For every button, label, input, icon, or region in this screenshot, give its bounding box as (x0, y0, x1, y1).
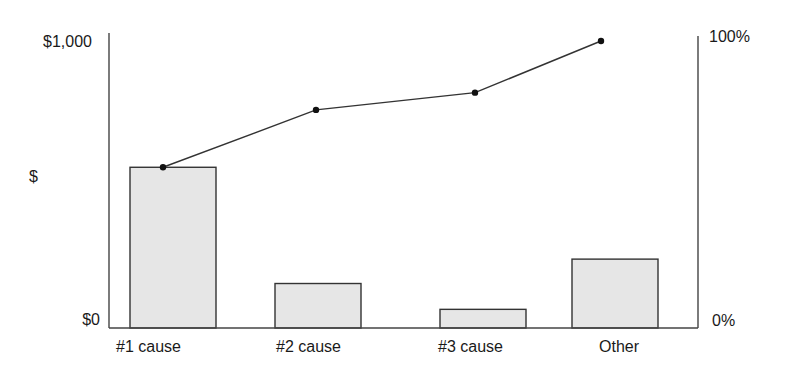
bar (130, 167, 216, 328)
x-category-label: Other (599, 338, 639, 356)
x-category-label: #3 cause (438, 338, 503, 356)
pareto-chart (0, 0, 787, 374)
line-marker (472, 89, 478, 95)
left-axis-bottom-label: $0 (82, 311, 100, 329)
bar (440, 309, 526, 328)
line-marker (160, 164, 166, 170)
line-markers (160, 38, 604, 171)
line-marker (313, 107, 319, 113)
bar-series (130, 167, 658, 328)
right-axis-bottom-label: 0% (712, 312, 735, 330)
x-category-label: #1 cause (116, 338, 181, 356)
bar (572, 259, 658, 328)
right-axis-top-label: 100% (709, 28, 750, 46)
left-axis-top-label: $1,000 (43, 33, 92, 51)
bar (275, 284, 361, 328)
line-marker (598, 38, 604, 44)
cumulative-percent-line (163, 41, 601, 167)
x-category-label: #2 cause (276, 338, 341, 356)
left-axis-title: $ (29, 168, 38, 186)
